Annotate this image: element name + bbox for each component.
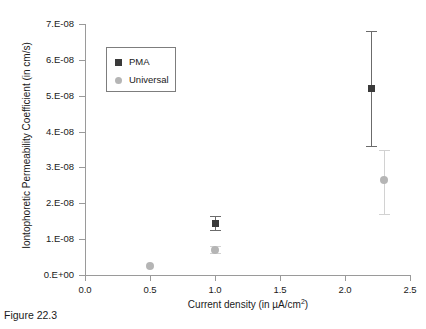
x-tick — [150, 275, 151, 281]
error-bar-cap — [379, 214, 390, 215]
x-tick-label: 1.0 — [195, 285, 235, 295]
x-tick — [410, 275, 411, 281]
x-tick — [280, 275, 281, 281]
error-bar-cap — [210, 216, 221, 217]
data-point-universal — [380, 176, 388, 184]
data-point-universal — [211, 246, 219, 254]
data-point-pma — [368, 85, 375, 92]
x-axis-line — [85, 275, 411, 276]
data-point-pma — [212, 220, 219, 227]
error-bar-cap — [366, 146, 377, 147]
x-tick-label: 0.5 — [130, 285, 170, 295]
error-bar-cap — [366, 31, 377, 32]
legend-item-pma: PMA — [115, 56, 150, 68]
y-axis-title: Iontophoretic Permeability Coefficient (… — [21, 16, 32, 276]
x-axis-title: Current density (in µA/cm2) — [85, 299, 411, 310]
x-tick-label: 2.0 — [325, 285, 365, 295]
legend-label-universal: Universal — [129, 75, 169, 85]
error-bar-cap — [210, 230, 221, 231]
x-tick — [345, 275, 346, 281]
chart-legend: PMA Universal — [106, 47, 176, 92]
legend-marker-circle-icon — [115, 77, 122, 84]
figure-caption: Figure 22.3 — [4, 309, 57, 321]
x-tick-label: 2.5 — [390, 285, 426, 295]
x-tick — [85, 275, 86, 281]
legend-marker-square-icon — [115, 59, 122, 66]
figure-container: 0.E+001.E-082.E-083.E-084.E-085.E-086.E-… — [0, 0, 426, 329]
x-tick-label: 0.0 — [65, 285, 105, 295]
error-bar-cap — [379, 150, 390, 151]
x-tick — [215, 275, 216, 281]
data-point-universal — [146, 262, 154, 270]
legend-item-universal: Universal — [115, 74, 169, 86]
legend-label-pma: PMA — [129, 57, 150, 67]
x-tick-label: 1.5 — [260, 285, 300, 295]
